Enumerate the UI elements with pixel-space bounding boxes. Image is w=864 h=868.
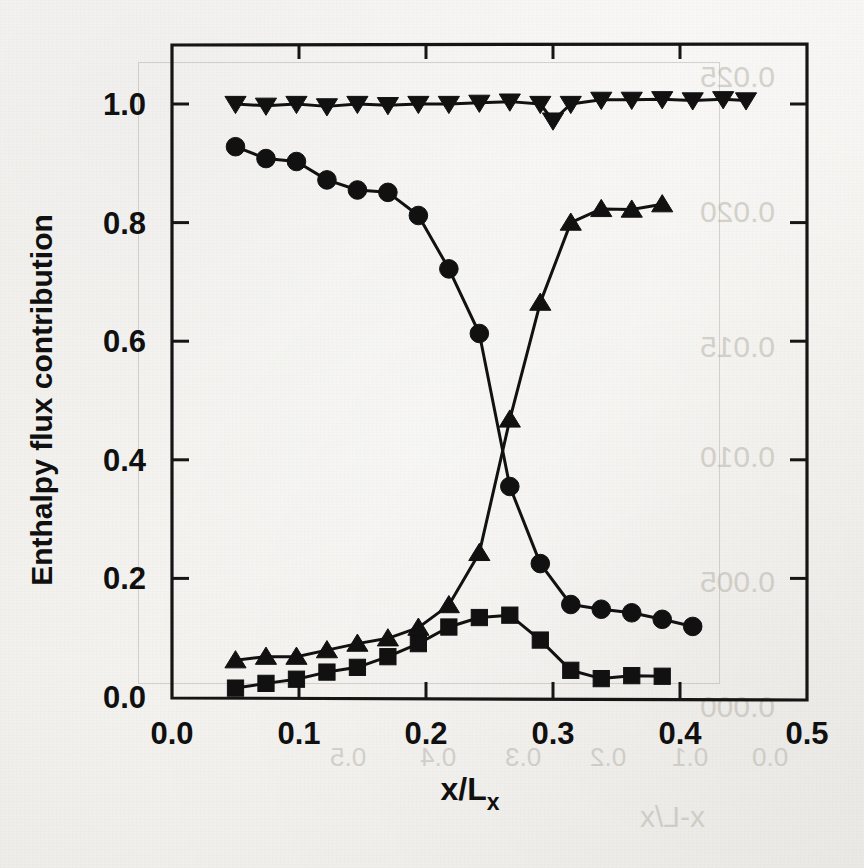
- data-point: [469, 543, 490, 560]
- y-tick-label-0.0: 0.0: [103, 680, 146, 715]
- x-tick-label-0.5: 0.5: [785, 716, 828, 751]
- axis-ticks: [172, 44, 807, 699]
- data-point: [592, 600, 611, 619]
- data-point: [227, 680, 243, 696]
- chart-canvas: 0.00.20.40.60.81.00.00.10.20.30.40.5 Ent…: [0, 0, 864, 868]
- data-point: [349, 659, 365, 675]
- figure-enthalpy-flux: 0.00.20.40.60.81.00.00.10.20.30.40.5 Ent…: [0, 0, 864, 868]
- series-line: [236, 99, 747, 120]
- series-line: [236, 147, 693, 627]
- y-tick-label-0.6: 0.6: [103, 324, 146, 359]
- data-point: [561, 595, 580, 614]
- data-point: [530, 96, 551, 113]
- data-point: [380, 649, 396, 665]
- data-point: [379, 183, 398, 202]
- data-point: [287, 152, 306, 171]
- series-triangle-down: [225, 92, 757, 131]
- data-point: [499, 410, 520, 427]
- data-point: [622, 603, 641, 622]
- x-axis-title-subscript: x: [487, 789, 500, 815]
- data-point: [501, 477, 520, 496]
- y-tick-label-0.8: 0.8: [103, 206, 146, 241]
- data-point: [653, 610, 672, 629]
- data-point: [532, 632, 548, 648]
- data-point: [683, 617, 702, 636]
- data-point: [560, 213, 581, 230]
- data-point: [440, 260, 459, 279]
- data-point: [542, 113, 563, 130]
- data-point: [288, 671, 304, 687]
- x-axis-title: x/Lx: [440, 771, 499, 815]
- data-point: [438, 595, 459, 612]
- data-point: [348, 181, 367, 200]
- data-point: [471, 609, 487, 625]
- data-point: [563, 662, 579, 678]
- x-tick-label-0.4: 0.4: [658, 716, 702, 751]
- data-point: [531, 554, 550, 573]
- data-point: [409, 206, 428, 225]
- x-axis-title-main: x/L: [440, 771, 486, 807]
- axis-tick-labels: 0.00.20.40.60.81.00.00.10.20.30.40.5: [103, 87, 829, 751]
- data-series-layer: [225, 92, 757, 697]
- y-tick-label-0.4: 0.4: [103, 443, 147, 478]
- y-tick-label-1.0: 1.0: [103, 87, 146, 122]
- y-tick-label-0.2: 0.2: [103, 561, 146, 596]
- data-point: [470, 324, 489, 343]
- data-point: [226, 137, 245, 156]
- data-point: [319, 664, 335, 680]
- data-point: [410, 636, 426, 652]
- data-point: [593, 670, 609, 686]
- data-point: [377, 629, 398, 646]
- data-point: [624, 668, 640, 684]
- data-point: [316, 99, 337, 116]
- axis-frame: [172, 44, 807, 700]
- x-tick-label-0.1: 0.1: [277, 716, 320, 751]
- x-tick-label-0.2: 0.2: [404, 716, 447, 751]
- data-point: [652, 195, 673, 212]
- data-point: [441, 619, 457, 635]
- data-point: [318, 171, 337, 190]
- data-point: [654, 668, 670, 684]
- data-point: [502, 607, 518, 623]
- data-point: [257, 149, 276, 168]
- x-tick-label-0.0: 0.0: [150, 716, 193, 751]
- data-point: [530, 293, 551, 310]
- x-tick-label-0.3: 0.3: [531, 716, 574, 751]
- data-point: [258, 675, 274, 691]
- y-axis-title: Enthalpy flux contribution: [25, 214, 58, 586]
